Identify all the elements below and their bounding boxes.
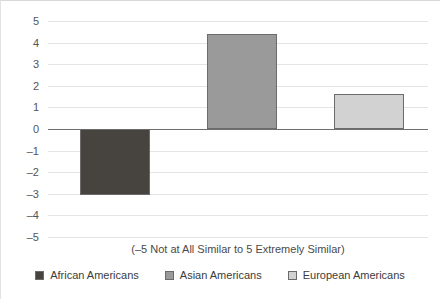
- y-axis-tick-label: 1: [33, 102, 39, 113]
- y-axis-tick-label: –2: [27, 167, 39, 178]
- scan-top-edge: [0, 0, 440, 1]
- bars-layer: [48, 21, 428, 237]
- y-axis-tick-label: 5: [33, 16, 39, 27]
- y-axis-tick-label: 3: [33, 59, 39, 70]
- legend-swatch-icon: [165, 271, 174, 280]
- legend-item-label: African Americans: [50, 270, 139, 281]
- y-axis-tick-label: –5: [27, 232, 39, 243]
- scan-left-edge: [0, 0, 1, 299]
- axis-caption: (–5 Not at All Similar to 5 Extremely Si…: [48, 243, 428, 256]
- y-axis-tick-label: –3: [27, 188, 39, 199]
- legend-swatch-icon: [35, 271, 44, 280]
- bar: [207, 34, 277, 129]
- legend-swatch-icon: [288, 271, 297, 280]
- bar-chart-figure: 543210–1–2–3–4–5 (–5 Not at All Similar …: [0, 0, 440, 299]
- plot-area: 543210–1–2–3–4–5: [48, 21, 428, 237]
- legend-item[interactable]: European Americans: [288, 270, 405, 281]
- legend-item-label: European Americans: [303, 270, 405, 281]
- y-axis-tick-label: –1: [27, 145, 39, 156]
- bar: [334, 94, 404, 129]
- y-axis-tick-label: 2: [33, 80, 39, 91]
- y-axis-tick-label: 0: [33, 124, 39, 135]
- legend-item[interactable]: Asian Americans: [165, 270, 262, 281]
- bar: [80, 129, 150, 195]
- y-axis-tick-label: 4: [33, 37, 39, 48]
- gridline: –5: [48, 237, 428, 238]
- chart-legend: African AmericansAsian AmericansEuropean…: [0, 270, 440, 281]
- legend-item[interactable]: African Americans: [35, 270, 139, 281]
- legend-item-label: Asian Americans: [180, 270, 262, 281]
- y-axis-tick-label: –4: [27, 210, 39, 221]
